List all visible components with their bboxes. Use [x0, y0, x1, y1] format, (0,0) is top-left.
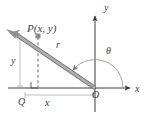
label-angle-theta: θ: [106, 46, 111, 56]
label-origin-O: O: [92, 90, 99, 100]
measure-bar-x: [25, 92, 93, 98]
angle-arc-theta: [74, 60, 123, 88]
label-horizontal-leg-x: x: [45, 98, 49, 108]
right-angle-mark-at-Q: [31, 82, 38, 88]
label-foot-Q: Q: [18, 97, 25, 107]
label-y-axis: y: [104, 3, 108, 13]
terminal-ray-OP-fill: [14, 33, 95, 88]
label-point-P: P(x, y): [27, 23, 56, 34]
label-radius-r: r: [56, 40, 60, 50]
measure-bar-y: [17, 38, 23, 86]
polar-coordinate-diagram: P(x, y) r θ y y x Q x O: [0, 0, 146, 120]
point-marker-P: [36, 34, 41, 39]
label-vertical-leg-y: y: [11, 56, 15, 66]
label-x-axis: x: [135, 84, 139, 94]
